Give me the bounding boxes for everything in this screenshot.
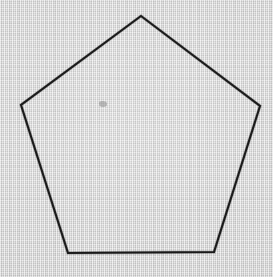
pentagon-outline-shape — [21, 16, 260, 253]
figure-canvas — [0, 0, 273, 277]
pentagon-figure — [0, 0, 273, 277]
